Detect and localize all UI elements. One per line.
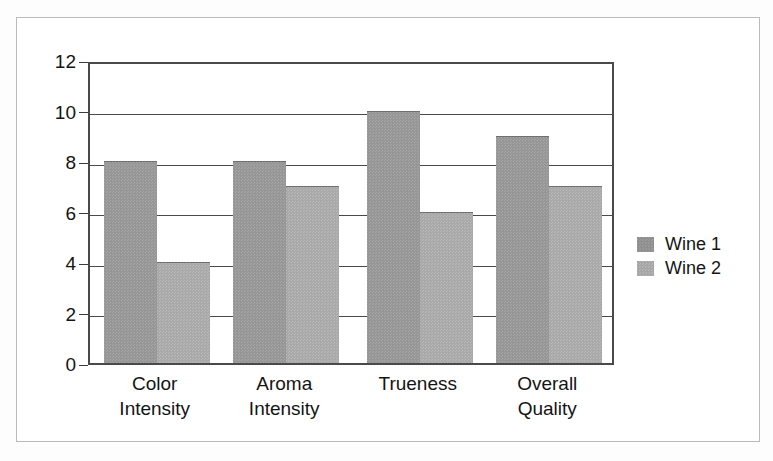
- y-axis-tick-label: 6: [65, 204, 76, 223]
- bar: [367, 111, 420, 364]
- gridline: [90, 114, 612, 115]
- y-axis-tick-label: 8: [65, 153, 76, 172]
- legend-item: Wine 2: [637, 257, 747, 279]
- y-axis-tick-label: 12: [55, 52, 76, 71]
- x-axis-category-label: OverallQuality: [468, 371, 626, 421]
- y-axis-tick-marks: [79, 62, 88, 365]
- figure-container: 024681012 ColorIntensityAromaIntensityTr…: [0, 0, 773, 461]
- y-axis-tick-label: 10: [55, 103, 76, 122]
- legend-label: Wine 1: [665, 234, 721, 254]
- y-axis-tick: [79, 112, 88, 113]
- bar: [233, 161, 286, 363]
- plot-inner: [90, 64, 612, 363]
- y-axis-tick-label: 4: [65, 254, 76, 273]
- legend-item: Wine 1: [637, 233, 747, 255]
- bar: [104, 161, 157, 363]
- y-axis-tick-labels: 024681012: [34, 62, 76, 365]
- y-axis-tick: [79, 62, 88, 63]
- y-axis-tick: [79, 213, 88, 214]
- category-label-line: Intensity: [205, 396, 363, 421]
- y-axis-tick-label: 0: [65, 355, 76, 374]
- chart-legend: Wine 1Wine 2: [637, 233, 747, 281]
- category-label-line: Quality: [468, 396, 626, 421]
- bar: [286, 186, 339, 363]
- y-axis-tick: [79, 365, 88, 366]
- bar: [549, 186, 602, 363]
- y-axis-tick: [79, 264, 88, 265]
- bar: [496, 136, 549, 363]
- legend-color-swatch: [637, 261, 654, 276]
- legend-label: Wine 2: [665, 258, 721, 278]
- plot-area: [88, 62, 614, 365]
- category-label-line: Overall: [468, 371, 626, 396]
- legend-color-swatch: [637, 237, 654, 252]
- bar: [420, 212, 473, 364]
- bar: [157, 262, 210, 363]
- y-axis-tick: [79, 314, 88, 315]
- x-axis-category-labels: ColorIntensityAromaIntensityTruenessOver…: [88, 371, 614, 429]
- y-axis-tick-label: 2: [65, 305, 76, 324]
- y-axis-tick: [79, 163, 88, 164]
